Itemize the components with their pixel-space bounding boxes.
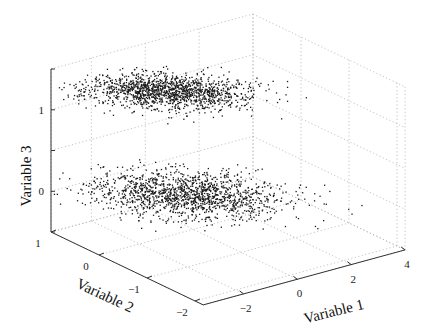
wall-grid-line [253,14,405,87]
z-tick-label: 1 [39,104,45,116]
x-tick-label: 0 [297,287,303,299]
scatter3d-chart: 0110−1−2−2024 Variable 3 Variable 2 Vari… [0,0,426,335]
x-tick [240,291,244,294]
x-tick [401,247,405,250]
wall-grid-line [253,177,405,250]
wall-grid-line [51,14,253,69]
x-tick [293,276,297,279]
grid-lines [51,14,405,305]
wall-grid-line [51,177,253,232]
x-tick [347,262,351,265]
x-tick-label: 2 [351,273,357,285]
y-tick-label: −1 [128,283,140,295]
x-tick-label: −2 [240,302,252,314]
floor-grid-line [145,206,297,279]
z-axis-label: Variable 3 [18,145,34,206]
wall-grid-line [51,136,253,191]
y-tick-label: −2 [176,306,188,318]
x-axis-line [203,250,405,305]
wall-grid-line [51,96,253,151]
y-axis-label: Variable 2 [74,275,136,315]
y-tick-label: 1 [35,237,41,249]
y-tick-label: 0 [83,260,89,272]
wall-grid-line [253,55,405,128]
z-tick-label: 0 [39,185,45,197]
x-tick-label: 4 [404,258,410,270]
wall-grid-line [253,136,405,209]
floor-grid-line [147,223,349,278]
wall-grid-line [253,96,405,169]
floor-grid-line [91,221,243,294]
y-axis-line [51,232,203,305]
x-axis-label: Variable 1 [302,296,365,326]
